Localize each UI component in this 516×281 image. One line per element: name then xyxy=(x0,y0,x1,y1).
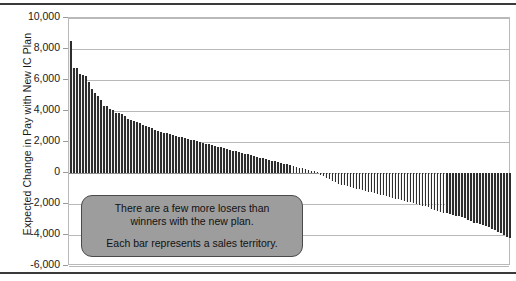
y-axis-tick-label: -4,000 xyxy=(0,227,60,239)
chart-screenshot: Expected Change in Pay with New IC Plan … xyxy=(0,0,516,281)
y-axis-tick-label: -6,000 xyxy=(0,258,60,270)
y-axis-tick-label: -2,000 xyxy=(0,196,60,208)
y-axis-tick-label: 10,000 xyxy=(0,10,60,22)
y-axis-tick-label: 8,000 xyxy=(0,41,60,53)
y-axis-tick-label: 4,000 xyxy=(0,103,60,115)
annotation-line-3: Each bar represents a sales territory. xyxy=(106,237,277,250)
page-top-rule xyxy=(0,3,516,5)
y-axis-tick xyxy=(63,265,68,266)
y-axis-tick-label: 2,000 xyxy=(0,134,60,146)
annotation-line-1: There are a few more losers than xyxy=(115,202,270,215)
annotation-line-2: winners with the new plan. xyxy=(130,215,253,228)
page-bottom-rule xyxy=(0,272,516,274)
bar xyxy=(508,173,511,238)
gridline xyxy=(69,266,509,267)
y-axis-tick-label: 0 xyxy=(0,165,60,177)
annotation-callout: There are a few more losers than winners… xyxy=(81,195,303,257)
y-axis-tick-label: 6,000 xyxy=(0,72,60,84)
